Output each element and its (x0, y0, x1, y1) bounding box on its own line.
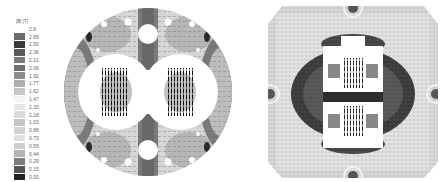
colorbar-entry: 2.8 (14, 25, 50, 33)
colorbar-entry: 0.00 (14, 173, 50, 181)
colorbar-swatch (14, 33, 25, 40)
colorbar-legend: |B| (T) 2.82.652.502.362.212.061.921.771… (14, 18, 50, 181)
colorbar-entry: 0.88 (14, 126, 50, 134)
colorbar-tick-label: 0.15 (29, 166, 39, 172)
colorbar-tick-label: 1.77 (29, 80, 39, 86)
field-map-circular (62, 4, 234, 180)
field-map-square (268, 6, 438, 178)
colorbar-tick-label: 2.65 (29, 34, 39, 40)
colorbar-tick-label: 1.33 (29, 104, 39, 110)
colorbar-entry: 0.15 (14, 165, 50, 173)
colorbar-swatch (14, 80, 25, 87)
colorbar-tick-label: 0.88 (29, 127, 39, 133)
colorbar-swatch (14, 158, 25, 165)
colorbar-tick-label: 1.18 (29, 112, 39, 118)
colorbar-entry: 1.33 (14, 103, 50, 111)
colorbar-swatch (14, 150, 25, 157)
colorbar-swatch (14, 143, 25, 150)
colorbar-tick-label: 1.92 (29, 73, 39, 79)
colorbar-title: |B| (T) (16, 18, 50, 25)
colorbar-swatch (14, 65, 25, 72)
colorbar-tick-label: 0.29 (29, 158, 39, 164)
colorbar-entry: 1.18 (14, 111, 50, 119)
colorbar-entry: 1.03 (14, 119, 50, 127)
colorbar-entry: 1.47 (14, 95, 50, 103)
colorbar-swatch (14, 166, 25, 173)
colorbar-entry: 2.06 (14, 64, 50, 72)
colorbar-entry: 0.44 (14, 150, 50, 158)
colorbar-tick-label: 0.59 (29, 143, 39, 149)
colorbar-entry: 1.92 (14, 72, 50, 80)
colorbar-rows: 2.82.652.502.362.212.061.921.771.621.471… (14, 25, 50, 181)
colorbar-swatch (14, 96, 25, 103)
colorbar-tick-label: 0.44 (29, 151, 39, 157)
colorbar-tick-label: 0.00 (29, 174, 39, 180)
colorbar-swatch (14, 111, 25, 118)
colorbar-swatch (14, 49, 25, 56)
colorbar-entry: 0.73 (14, 134, 50, 142)
colorbar-swatch (14, 119, 25, 126)
colorbar-tick-label: 2.8 (29, 26, 36, 32)
colorbar-entry: 0.29 (14, 158, 50, 166)
colorbar-tick-label: 2.50 (29, 41, 39, 47)
colorbar-entry: 2.36 (14, 48, 50, 56)
colorbar-entry: 2.65 (14, 33, 50, 41)
square-domain (268, 6, 438, 178)
colorbar-tick-label: 1.03 (29, 119, 39, 125)
colorbar-entry: 2.21 (14, 56, 50, 64)
colorbar-entry: 1.62 (14, 87, 50, 95)
colorbar-entry: 0.59 (14, 142, 50, 150)
colorbar-tick-label: 2.21 (29, 57, 39, 63)
colorbar-swatch (14, 174, 25, 181)
colorbar-entry: 1.77 (14, 80, 50, 88)
colorbar-swatch (14, 26, 25, 33)
colorbar-tick-label: 1.47 (29, 96, 39, 102)
colorbar-swatch (14, 127, 25, 134)
colorbar-tick-label: 2.36 (29, 49, 39, 55)
colorbar-tick-label: 2.06 (29, 65, 39, 71)
colorbar-swatch (14, 57, 25, 64)
colorbar-swatch (14, 72, 25, 79)
circular-domain (62, 4, 234, 180)
colorbar-swatch (14, 135, 25, 142)
colorbar-tick-label: 0.73 (29, 135, 39, 141)
colorbar-tick-label: 1.62 (29, 88, 39, 94)
colorbar-entry: 2.50 (14, 41, 50, 49)
colorbar-swatch (14, 88, 25, 95)
colorbar-swatch (14, 41, 25, 48)
colorbar-swatch (14, 104, 25, 111)
